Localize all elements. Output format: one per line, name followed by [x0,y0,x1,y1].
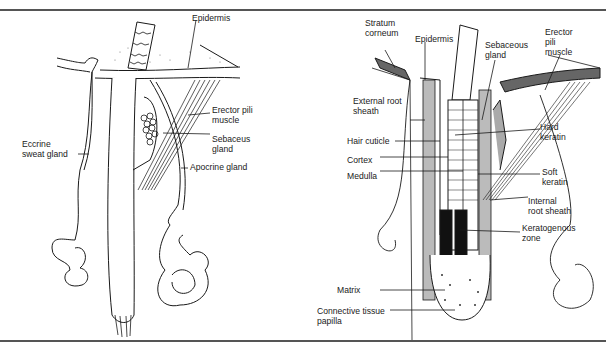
bottom-rule [0,340,606,342]
left-panel: Epidermis Erector pili muscle Sebaceus g… [0,10,300,340]
label-epidermis: Epidermis [192,13,230,23]
label-cortex: Cortex [347,155,372,165]
label-apocrine-gland: Apocrine gland [190,162,247,172]
label-epidermis-right: Epidermis [415,34,453,44]
label-keratogenous-zone: Keratogenous zone [522,223,576,243]
label-sebaceous-gland: Sebaceous gland [485,40,528,60]
label-external-root-sheath: External root sheath [353,96,402,116]
label-eccrine-sweat-gland: Eccrine sweat gland [22,139,68,159]
label-matrix: Matrix [337,285,360,295]
label-hard-keratin: Hard keratin [540,122,566,142]
label-soft-keratin: Soft keratin [542,167,568,187]
label-connective-tissue-papilla: Connective tissue papilla [317,306,385,326]
label-internal-root-sheath: Internal root sheath [528,196,571,216]
right-panel: Stratum corneum Epidermis Sebaceous glan… [300,10,606,340]
label-medulla: Medulla [347,171,377,181]
label-erector-pili-muscle-right: Erector pili muscle [545,27,573,57]
label-sebaceus-gland: Sebaceus gland [212,134,250,154]
hair-follicle-glands-drawing [0,10,300,340]
label-erector-pili-muscle: Erector pili muscle [212,105,253,125]
label-stratum-corneum: Stratum corneum [365,18,398,38]
label-hair-cuticle: Hair cuticle [347,136,390,146]
